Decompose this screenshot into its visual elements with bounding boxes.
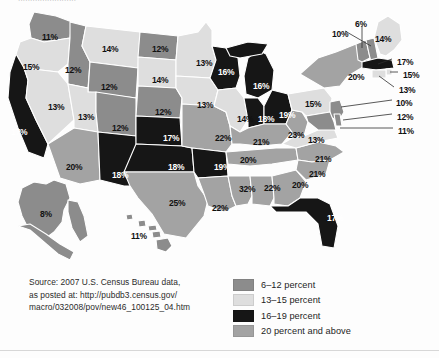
state-label-RI: 15% <box>403 70 419 80</box>
state-AK-panhandle <box>68 200 88 242</box>
source-line-2: as posted at: http://pubdb3.census.gov/ <box>29 289 229 302</box>
us-choropleth-map[interactable]: .st { stroke: #ffffff; stroke-width: 1.1… <box>0 2 439 272</box>
legend-swatch <box>233 310 254 322</box>
leader-line-NJ <box>341 100 392 107</box>
state-label-WI: 16% <box>218 67 234 77</box>
state-label-AZ: 20% <box>66 162 82 172</box>
map-figure: ........................ .st { stroke: #… <box>0 0 439 358</box>
legend-row: 16–19 percent <box>233 308 423 324</box>
state-label-ID: 12% <box>65 65 81 75</box>
state-label-AL: 22% <box>264 183 280 193</box>
state-label-AK: 8% <box>40 209 52 219</box>
state-DE <box>334 114 342 126</box>
state-label-KS: 17% <box>163 133 179 143</box>
state-label-SC: 21% <box>309 169 325 179</box>
state-label-SD: 14% <box>152 75 168 85</box>
state-label-FL: 17% <box>327 213 343 223</box>
state-HI-molokai <box>148 225 157 231</box>
source-line-3: macro/032008/pov/new46_100125_04.htm <box>29 301 229 314</box>
source-note: Source: 2007 U.S. Census Bureau data, as… <box>29 276 229 314</box>
state-label-TX: 25% <box>169 198 185 208</box>
state-label-CO: 12% <box>112 123 128 133</box>
page-divider <box>0 350 439 351</box>
state-label-OH: 19% <box>279 110 295 120</box>
legend-row: 13–15 percent <box>233 293 423 309</box>
legend-swatch <box>233 325 254 337</box>
state-label-GA: 20% <box>292 180 308 190</box>
state-label-OK: 18% <box>168 162 184 172</box>
state-label-NJ: 10% <box>396 98 412 108</box>
state-label-ME: 14% <box>375 34 391 44</box>
state-CT <box>372 70 386 78</box>
legend-label: 6–12 percent <box>261 280 315 290</box>
state-HI-bigisland <box>156 238 172 252</box>
legend-label: 20 percent and above <box>261 326 351 336</box>
state-label-NM: 18% <box>112 170 128 180</box>
state-label-CA: 17% <box>11 127 27 137</box>
state-MN <box>176 22 216 78</box>
state-label-WA: 11% <box>42 32 58 42</box>
legend-swatch <box>233 279 254 291</box>
state-FL <box>270 198 338 248</box>
state-label-IN: 18% <box>258 114 274 124</box>
state-label-PA: 15% <box>305 99 321 109</box>
state-label-DE: 12% <box>397 112 413 122</box>
state-label-NE: 12% <box>155 107 171 117</box>
state-label-MT: 14% <box>102 44 118 54</box>
state-label-WY: 12% <box>101 82 117 92</box>
state-label-UT: 13% <box>78 112 94 122</box>
state-label-NY: 20% <box>348 72 364 82</box>
state-label-MA: 17% <box>397 57 413 67</box>
state-label-KY: 21% <box>253 137 269 147</box>
state-label-NC: 21% <box>315 154 331 164</box>
state-HI-oahu <box>138 220 146 227</box>
state-HI-maui <box>152 231 161 238</box>
state-TX <box>124 172 208 238</box>
legend-row: 20 percent and above <box>233 324 423 340</box>
state-label-NH: 10% <box>332 29 348 39</box>
state-label-LA: 22% <box>212 203 228 213</box>
state-label-MO: 22% <box>215 133 231 143</box>
state-label-MI: 16% <box>253 81 269 91</box>
state-label-HI: 11% <box>131 231 147 241</box>
leader-line-DE <box>343 114 392 120</box>
legend-swatch <box>233 294 254 306</box>
legend-label: 16–19 percent <box>261 311 320 321</box>
state-label-AR: 19% <box>214 162 230 172</box>
state-label-NV: 13% <box>48 102 64 112</box>
source-line-1: Source: 2007 U.S. Census Bureau data, <box>29 276 229 289</box>
state-label-MS: 32% <box>239 184 255 194</box>
state-label-TN: 20% <box>240 155 256 165</box>
state-label-OR: 15% <box>23 62 39 72</box>
state-label-WV: 23% <box>288 130 304 140</box>
state-label-ND: 12% <box>152 44 168 54</box>
state-label-CT: 13% <box>399 85 415 95</box>
legend-label: 13–15 percent <box>261 295 320 305</box>
legend-row: 6–12 percent <box>233 277 423 293</box>
state-TN <box>226 148 298 166</box>
state-label-IA: 13% <box>197 100 213 110</box>
state-label-MN: 13% <box>196 58 212 68</box>
state-label-VT: 6% <box>355 19 367 29</box>
state-label-IL: 14% <box>237 114 253 124</box>
state-label-VA: 13% <box>308 135 324 145</box>
map-legend: 6–12 percent13–15 percent16–19 percent20… <box>233 277 423 339</box>
state-MD <box>306 112 336 130</box>
state-label-MD: 11% <box>398 126 414 136</box>
state-HI-kauai <box>126 214 133 220</box>
